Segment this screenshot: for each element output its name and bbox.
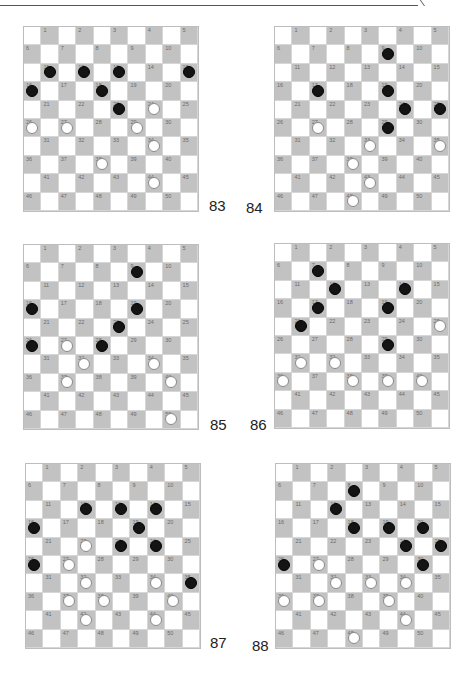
square-13[interactable]: 13: [362, 64, 379, 82]
white-piece-icon[interactable]: [165, 413, 177, 425]
square-22[interactable]: 22: [327, 101, 344, 119]
square-3[interactable]: 3: [111, 245, 128, 263]
square-41[interactable]: 41: [41, 174, 58, 192]
square-26[interactable]: 26: [275, 336, 292, 354]
square-39[interactable]: 39: [128, 374, 145, 392]
square-11[interactable]: 11: [43, 501, 60, 519]
square-43[interactable]: 43: [113, 611, 130, 629]
square-18[interactable]: 18: [345, 82, 362, 100]
square-46[interactable]: 46: [275, 410, 292, 428]
black-piece-icon[interactable]: [312, 265, 324, 277]
square-23[interactable]: 23: [362, 101, 379, 119]
square-36[interactable]: 36: [24, 156, 41, 174]
square-31[interactable]: 31: [41, 355, 58, 373]
black-piece-icon[interactable]: [434, 103, 446, 115]
square-30[interactable]: 30: [414, 119, 431, 137]
square-2[interactable]: 2: [327, 27, 344, 45]
square-6[interactable]: 6: [26, 482, 43, 500]
black-piece-icon[interactable]: [382, 122, 394, 134]
square-31[interactable]: 31: [43, 574, 60, 592]
square-41[interactable]: 41: [292, 391, 309, 409]
square-1[interactable]: 1: [41, 245, 58, 263]
square-34[interactable]: 34: [146, 137, 163, 155]
square-10[interactable]: 10: [163, 263, 180, 281]
square-32[interactable]: 32: [78, 574, 95, 592]
square-13[interactable]: 13: [363, 501, 380, 519]
black-piece-icon[interactable]: [312, 302, 324, 314]
white-piece-icon[interactable]: [26, 122, 38, 134]
square-25[interactable]: 25: [432, 318, 449, 336]
black-piece-icon[interactable]: [382, 339, 394, 351]
square-35[interactable]: 35: [432, 354, 449, 372]
white-piece-icon[interactable]: [347, 158, 359, 170]
square-50[interactable]: 50: [163, 411, 180, 429]
square-25[interactable]: 25: [183, 538, 200, 556]
square-6[interactable]: 6: [276, 482, 293, 500]
square-19[interactable]: 19: [128, 82, 145, 100]
square-10[interactable]: 10: [163, 45, 180, 63]
square-39[interactable]: 39: [379, 156, 396, 174]
square-2[interactable]: 2: [327, 244, 344, 262]
square-45[interactable]: 45: [432, 391, 449, 409]
black-piece-icon[interactable]: [96, 340, 108, 352]
square-8[interactable]: 8: [96, 482, 113, 500]
square-48[interactable]: 48: [345, 193, 362, 211]
square-35[interactable]: 35: [183, 574, 200, 592]
square-42[interactable]: 42: [78, 611, 95, 629]
square-13[interactable]: 13: [362, 281, 379, 299]
square-46[interactable]: 46: [26, 630, 43, 648]
square-2[interactable]: 2: [78, 464, 95, 482]
square-26[interactable]: 26: [26, 556, 43, 574]
square-28[interactable]: 28: [345, 119, 362, 137]
square-4[interactable]: 4: [146, 27, 163, 45]
square-50[interactable]: 50: [415, 630, 432, 648]
square-20[interactable]: 20: [163, 82, 180, 100]
black-piece-icon[interactable]: [382, 85, 394, 97]
square-28[interactable]: 28: [94, 337, 111, 355]
square-40[interactable]: 40: [163, 156, 180, 174]
black-piece-icon[interactable]: [26, 340, 38, 352]
square-30[interactable]: 30: [414, 336, 431, 354]
square-18[interactable]: 18: [96, 519, 113, 537]
square-33[interactable]: 33: [113, 574, 130, 592]
square-29[interactable]: 29: [130, 556, 147, 574]
black-piece-icon[interactable]: [44, 66, 56, 78]
square-49[interactable]: 49: [128, 193, 145, 211]
square-43[interactable]: 43: [111, 174, 128, 192]
square-48[interactable]: 48: [94, 411, 111, 429]
black-piece-icon[interactable]: [348, 522, 360, 534]
white-piece-icon[interactable]: [277, 375, 289, 387]
square-32[interactable]: 32: [76, 137, 93, 155]
square-15[interactable]: 15: [181, 64, 198, 82]
square-42[interactable]: 42: [328, 611, 345, 629]
square-12[interactable]: 12: [327, 281, 344, 299]
square-30[interactable]: 30: [163, 337, 180, 355]
square-10[interactable]: 10: [165, 482, 182, 500]
square-16[interactable]: 16: [24, 82, 41, 100]
white-piece-icon[interactable]: [364, 140, 376, 152]
square-41[interactable]: 41: [43, 611, 60, 629]
white-piece-icon[interactable]: [434, 320, 446, 332]
square-32[interactable]: 32: [327, 137, 344, 155]
square-34[interactable]: 34: [398, 574, 415, 592]
square-17[interactable]: 17: [61, 519, 78, 537]
white-piece-icon[interactable]: [382, 375, 394, 387]
square-24[interactable]: 24: [397, 318, 414, 336]
square-21[interactable]: 21: [43, 538, 60, 556]
square-15[interactable]: 15: [432, 64, 449, 82]
white-piece-icon[interactable]: [383, 595, 395, 607]
square-48[interactable]: 48: [346, 630, 363, 648]
square-34[interactable]: 34: [397, 137, 414, 155]
square-36[interactable]: 36: [26, 593, 43, 611]
square-15[interactable]: 15: [181, 282, 198, 300]
square-27[interactable]: 27: [310, 336, 327, 354]
square-19[interactable]: 19: [128, 300, 145, 318]
square-24[interactable]: 24: [146, 319, 163, 337]
white-piece-icon[interactable]: [365, 577, 377, 589]
square-18[interactable]: 18: [346, 519, 363, 537]
square-25[interactable]: 25: [181, 319, 198, 337]
white-piece-icon[interactable]: [313, 595, 325, 607]
square-35[interactable]: 35: [181, 355, 198, 373]
square-34[interactable]: 34: [148, 574, 165, 592]
square-30[interactable]: 30: [165, 556, 182, 574]
